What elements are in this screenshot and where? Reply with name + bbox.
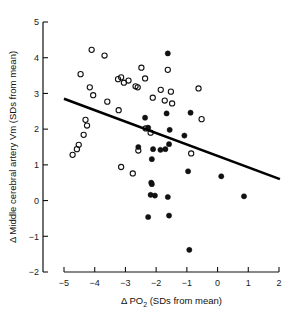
data-point (150, 95, 155, 100)
x-tick-label: −5 (59, 278, 69, 288)
data-point (168, 89, 173, 94)
data-point (89, 47, 94, 52)
chart-canvas: −2−1012345 −5−4−3−2−1012 Δ PO2 (SDs from… (0, 0, 294, 316)
data-point (83, 117, 88, 122)
y-tick-label: 2 (34, 124, 39, 134)
data-point (126, 78, 131, 83)
data-point (136, 144, 141, 149)
data-point (146, 214, 151, 219)
x-tick-label: −1 (182, 278, 192, 288)
data-point (185, 169, 190, 174)
data-point (105, 99, 110, 104)
x-tick-label: 2 (276, 278, 281, 288)
x-axis-ticks (64, 267, 279, 272)
y-tick-label: 1 (34, 160, 39, 170)
data-point (152, 193, 157, 198)
data-point (70, 152, 75, 157)
data-point (162, 98, 167, 103)
data-point (142, 115, 147, 120)
y-axis-ticks (43, 22, 48, 272)
data-point (165, 51, 170, 56)
data-point (165, 194, 170, 199)
data-point (102, 53, 107, 58)
x-axis-tick-labels: −5−4−3−2−1012 (59, 278, 282, 288)
data-point (84, 123, 89, 128)
data-point (165, 67, 170, 72)
series-open-circles (70, 47, 204, 176)
data-point (188, 110, 193, 115)
data-point (150, 147, 155, 152)
y-tick-label: 5 (34, 17, 39, 27)
data-point (166, 142, 171, 147)
data-point (166, 213, 171, 218)
y-tick-label: 4 (34, 53, 39, 63)
data-point (130, 171, 135, 176)
data-point (158, 87, 163, 92)
data-point (91, 93, 96, 98)
data-point (116, 108, 121, 113)
data-point (219, 174, 224, 179)
y-tick-label: −1 (29, 232, 39, 242)
data-point (119, 164, 124, 169)
x-tick-label: −4 (90, 278, 100, 288)
data-point (87, 85, 92, 90)
data-point (241, 194, 246, 199)
y-tick-label: 0 (34, 196, 39, 206)
data-point (182, 133, 187, 138)
y-axis-tick-labels: −2−1012345 (29, 17, 39, 277)
scatter-plot-figure: −2−1012345 −5−4−3−2−1012 Δ PO2 (SDs from… (0, 0, 294, 316)
data-point (142, 76, 147, 81)
data-point (189, 151, 194, 156)
y-axis-title: Δ Middle cerebral artery Vm (SDs from me… (7, 51, 18, 243)
data-point (78, 72, 83, 77)
x-tick-label: −3 (120, 278, 130, 288)
data-point (164, 111, 169, 116)
data-point (187, 247, 192, 252)
data-point (163, 147, 168, 152)
data-point (149, 157, 154, 162)
data-point (167, 127, 172, 132)
y-tick-label: −2 (29, 267, 39, 277)
data-point (81, 132, 86, 137)
x-axis-title: Δ PO2 (SDs from mean) (121, 295, 222, 308)
data-point (139, 65, 144, 70)
data-point (196, 86, 201, 91)
regression-fit-line (64, 99, 280, 179)
series-filled-circles (136, 51, 247, 253)
y-tick-label: 3 (34, 89, 39, 99)
x-tick-label: 0 (215, 278, 220, 288)
data-point (170, 101, 175, 106)
data-point (199, 117, 204, 122)
x-tick-label: 1 (246, 278, 251, 288)
data-point (158, 147, 163, 152)
data-point (149, 182, 154, 187)
x-tick-label: −2 (151, 278, 161, 288)
